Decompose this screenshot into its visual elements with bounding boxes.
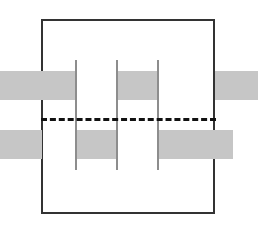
bar-lower-middle bbox=[75, 130, 117, 159]
bar-upper-left-outer bbox=[0, 71, 76, 100]
pillar-1 bbox=[75, 60, 77, 170]
technical-diagram-canvas bbox=[0, 0, 258, 229]
bar-lower-right bbox=[157, 130, 233, 159]
horizontal-dashed-centerline bbox=[41, 118, 216, 121]
bar-lower-left-outer bbox=[0, 130, 42, 159]
bar-upper-middle bbox=[116, 71, 158, 100]
pillar-3 bbox=[157, 60, 159, 170]
bar-upper-right-outer bbox=[215, 71, 258, 100]
outer-boundary-rectangle bbox=[41, 19, 215, 214]
pillar-2 bbox=[116, 60, 118, 170]
